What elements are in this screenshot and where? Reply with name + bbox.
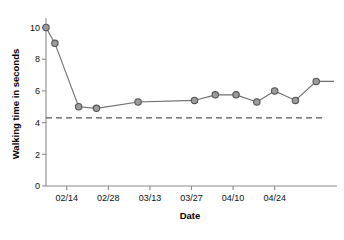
y-tick-label-2: 2 <box>35 150 40 160</box>
x-tick-label-0313: 03/13 <box>139 193 162 203</box>
x-tick-label-0327: 03/27 <box>180 193 203 203</box>
data-point-marker <box>254 99 260 105</box>
x-tick-label-0410: 04/10 <box>222 193 245 203</box>
y-tick-label-4: 4 <box>35 118 40 128</box>
data-point-marker <box>271 88 277 94</box>
x-tick-label-0424: 04/24 <box>263 193 286 203</box>
data-point-marker <box>233 92 239 98</box>
x-tick-label-0214: 02/14 <box>56 193 79 203</box>
y-axis-title: Walking time in seconds <box>10 49 21 160</box>
data-point-marker <box>212 92 218 98</box>
series-line-walking-time <box>46 28 334 109</box>
chart-canvas: Walking time in seconds 10 8 6 4 2 0 02/… <box>0 0 344 240</box>
x-axis-title: Date <box>180 210 201 221</box>
x-tick-label-0228: 02/28 <box>97 193 120 203</box>
y-tick-label-6: 6 <box>35 86 40 96</box>
data-point-marker <box>52 40 58 46</box>
series-markers-group <box>43 24 320 111</box>
y-tick-label-8: 8 <box>35 54 40 64</box>
data-point-marker <box>75 104 81 110</box>
data-point-marker <box>191 97 197 103</box>
data-point-marker <box>93 105 99 111</box>
y-tick-label-10: 10 <box>30 23 40 33</box>
data-point-marker <box>292 97 298 103</box>
data-point-marker <box>135 99 141 105</box>
data-point-marker <box>313 78 319 84</box>
y-tick-label-0: 0 <box>35 181 40 191</box>
data-point-marker <box>43 24 49 30</box>
walking-time-chart: Walking time in seconds 10 8 6 4 2 0 02/… <box>0 0 344 240</box>
